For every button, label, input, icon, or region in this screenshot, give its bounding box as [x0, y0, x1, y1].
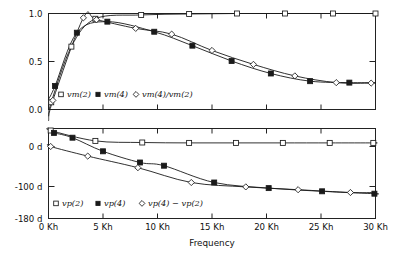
legend-label: vp(4) − vp(2)	[148, 198, 203, 208]
data-point-filled-square	[105, 19, 110, 24]
data-point-open-square	[187, 11, 192, 16]
series-line	[49, 22, 376, 100]
bottom-panel-legend: vp(2)vp(4)vp(4) − vp(2)	[54, 198, 203, 208]
data-point-filled-square	[190, 43, 195, 48]
data-point-open-square	[139, 12, 144, 17]
legend-marker-open-square	[54, 201, 59, 206]
data-point-open-square	[330, 11, 335, 16]
top-panel-legend: vm(2)vm(4)vm(4)/vm(2)	[59, 89, 193, 99]
data-point-filled-square	[268, 71, 273, 76]
data-point-open-square	[235, 11, 240, 16]
data-point-open-square	[233, 140, 238, 145]
data-point-filled-square	[347, 80, 352, 85]
chart-figure: 1.00.50.0 vm(2)vm(4)vm(4)/vm(2) 0 d-100 …	[0, 0, 401, 262]
data-point-filled-square	[74, 30, 79, 35]
legend-label: vp(2)	[62, 198, 83, 208]
y-ticklabel: 0.5	[29, 57, 43, 67]
data-point-open-diamond	[243, 184, 249, 190]
data-point-open-diamond	[295, 187, 301, 193]
data-point-open-diamond	[333, 80, 339, 86]
bottom-panel-y-ticklabels: 0 d-100 d-180 d	[15, 142, 43, 224]
data-point-open-diamond	[188, 179, 194, 185]
data-point-open-square	[187, 140, 192, 145]
series-line	[49, 13, 376, 116]
data-point-filled-square	[51, 130, 56, 135]
y-ticklabel: 1.0	[29, 9, 43, 19]
data-point-filled-square	[70, 135, 75, 140]
y-ticklabel: -100 d	[15, 182, 43, 192]
data-point-open-square	[371, 140, 376, 145]
bottom-panel-markers	[48, 128, 377, 196]
legend-marker-filled-square	[96, 201, 100, 205]
data-point-open-diamond	[368, 80, 374, 86]
legend-marker-open-square	[59, 92, 64, 97]
x-ticklabel: 5 Kh	[93, 222, 112, 232]
data-point-open-diamond	[135, 165, 141, 171]
legend-label: vm(2)	[67, 89, 91, 99]
data-point-open-diamond	[85, 153, 91, 159]
data-point-filled-square	[53, 83, 58, 88]
legend-marker-filled-square	[96, 92, 100, 96]
x-axis-title: Frequency	[189, 238, 234, 248]
data-point-filled-square	[152, 29, 157, 34]
x-axis-ticklabels: 0 Kh5 Kh10 Kh15 Kh20 Kh25 Kh30 Kh	[39, 222, 388, 232]
data-point-filled-square	[101, 149, 106, 154]
data-point-open-square	[69, 44, 74, 49]
data-point-open-square	[140, 140, 145, 145]
legend-label: vp(4)	[104, 198, 125, 208]
x-ticklabel: 10 Kh	[145, 222, 170, 232]
data-point-open-square	[327, 140, 332, 145]
data-point-filled-square	[372, 191, 377, 196]
x-ticklabel: 25 Kh	[309, 222, 334, 232]
x-ticklabel: 0 Kh	[39, 222, 58, 232]
top-panel: 1.00.50.0 vm(2)vm(4)vm(4)/vm(2)	[29, 9, 378, 121]
data-point-open-square	[93, 138, 98, 143]
data-point-open-diamond	[347, 189, 353, 195]
data-point-filled-square	[266, 186, 271, 191]
legend-marker-open-diamond	[133, 92, 139, 98]
data-point-open-square	[280, 140, 285, 145]
legend-label: vm(4)/vm(2)	[142, 89, 193, 99]
data-point-filled-square	[138, 160, 143, 165]
top-panel-y-ticklabels: 1.00.50.0	[29, 9, 43, 115]
y-ticklabel: 0.0	[29, 105, 43, 115]
data-point-open-square	[283, 11, 288, 16]
chart-canvas: 1.00.50.0 vm(2)vm(4)vm(4)/vm(2) 0 d-100 …	[0, 0, 401, 262]
data-point-filled-square	[320, 189, 325, 194]
data-point-filled-square	[162, 163, 167, 168]
top-panel-markers	[49, 11, 378, 105]
data-point-open-square	[373, 11, 378, 16]
legend-marker-open-diamond	[139, 201, 145, 207]
x-ticklabel: 20 Kh	[254, 222, 279, 232]
bottom-panel: 0 d-100 d-180 d vp(2)vp(4)vp(4) − vp(2) …	[15, 128, 388, 232]
data-point-open-diamond	[250, 61, 256, 67]
y-ticklabel: 0 d	[29, 142, 43, 152]
x-ticklabel: 15 Kh	[200, 222, 225, 232]
data-point-open-diamond	[80, 15, 86, 21]
data-point-filled-square	[229, 59, 234, 64]
data-point-open-diamond	[169, 31, 175, 37]
legend-label: vm(4)	[104, 89, 128, 99]
x-ticklabel: 30 Kh	[363, 222, 388, 232]
data-point-filled-square	[308, 79, 313, 84]
data-point-filled-square	[212, 180, 217, 185]
